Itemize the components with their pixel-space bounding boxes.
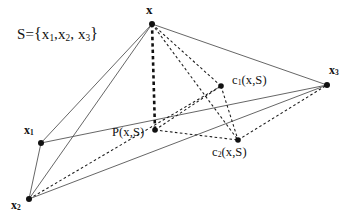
vertex-label-x1-sub: 1 (30, 128, 34, 137)
point-x1 (38, 140, 44, 146)
point-label-c2: c2(x,S) (212, 146, 247, 159)
geometry-figure: S={x1,x2, x3} x x1 x2 x3 P(x,S) c1(x,S) … (0, 0, 349, 221)
edge-x-c2 (152, 24, 238, 140)
point-label-p: P(x,S) (112, 126, 144, 139)
point-c1 (218, 83, 224, 89)
vertex-label-x2: x2 (11, 199, 21, 212)
dashed-thick-edge-group (152, 24, 155, 130)
set-member-1: x1 (42, 26, 54, 42)
vertex-dot-group (26, 21, 330, 202)
edge-p-c2 (155, 130, 238, 140)
edge-x-x2 (29, 24, 152, 199)
edge-c1-x2 (29, 86, 221, 199)
point-x2 (26, 196, 32, 202)
edge-p-c1 (155, 86, 221, 130)
point-x3 (324, 82, 330, 88)
vertex-label-x: x (146, 3, 153, 16)
vertex-label-x3: x3 (329, 64, 339, 77)
edge-x1-x3 (41, 85, 327, 143)
vertex-label-x3-sub: 3 (335, 68, 339, 77)
set-member-3: x3 (78, 26, 90, 42)
equals-sign: = (25, 26, 34, 42)
point-label-c1: c1(x,S) (232, 74, 267, 87)
edge-x-c1 (152, 24, 221, 86)
point-label-c2-arg: (x,S) (222, 145, 247, 159)
set-member-2: x2 (58, 26, 70, 42)
point-x (149, 21, 155, 27)
edge-c1-c2 (221, 86, 238, 140)
point-label-c1-arg: (x,S) (242, 73, 267, 87)
brace-close: } (90, 25, 98, 42)
set-comma-2: , (70, 26, 78, 42)
edge-x-p (152, 24, 155, 130)
point-p (152, 127, 158, 133)
edge-x2-x3 (29, 85, 327, 199)
edge-c2-x3 (238, 85, 327, 140)
vertex-label-x1: x1 (24, 124, 34, 137)
dashed-thin-edge-group (29, 24, 327, 199)
vertex-label-x-text: x (146, 2, 153, 17)
point-label-p-text: P(x,S) (112, 125, 144, 139)
vertex-label-x2-sub: 2 (17, 203, 21, 212)
point-c2 (235, 137, 241, 143)
set-definition-label: S={x1,x2, x3} (17, 26, 98, 43)
brace-open: { (34, 25, 42, 42)
